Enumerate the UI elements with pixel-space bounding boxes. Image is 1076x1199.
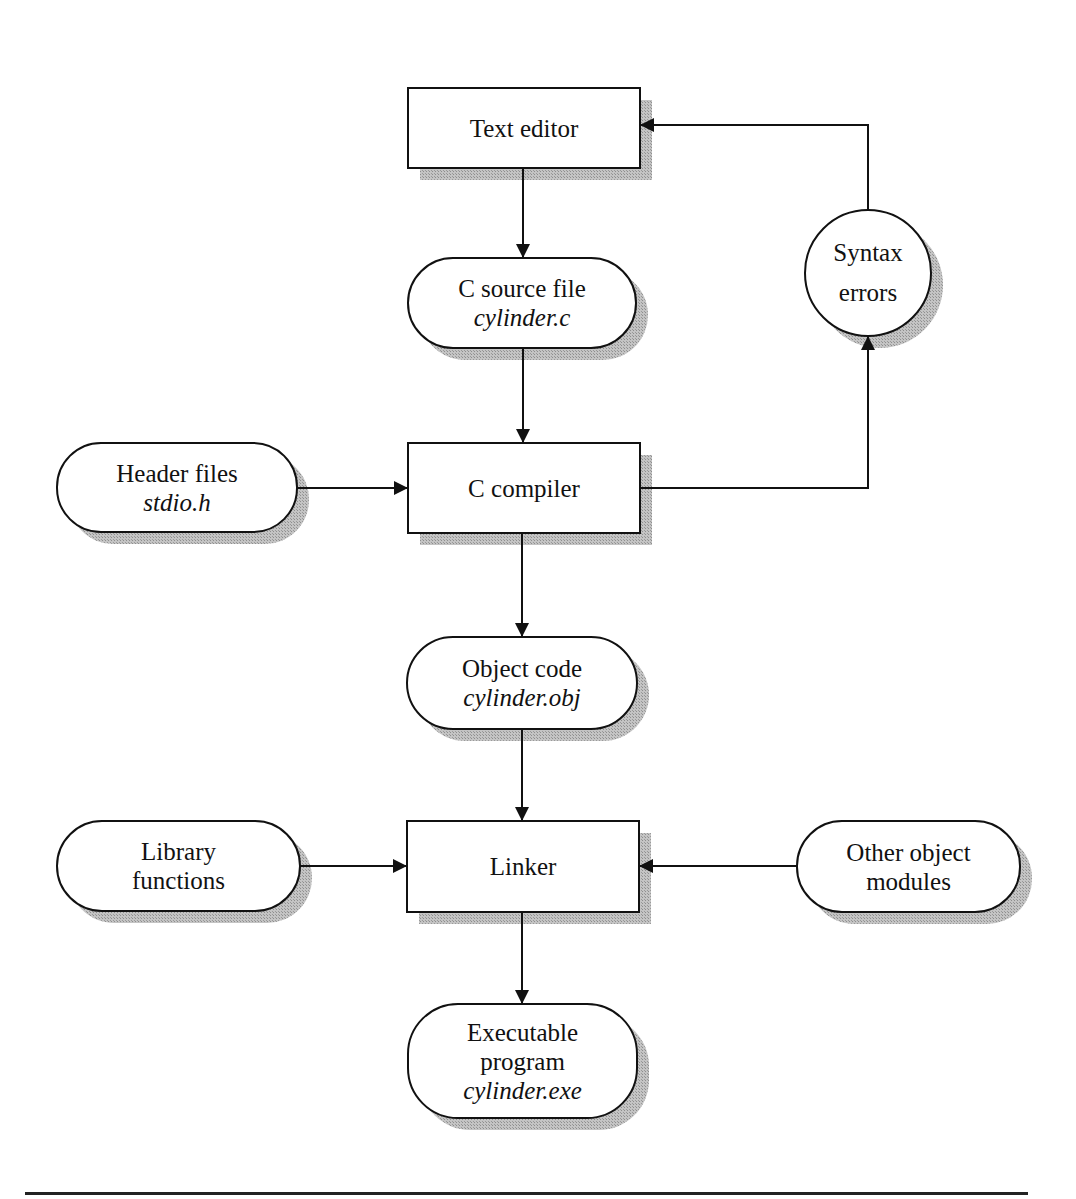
executable-program-filename: cylinder.exe	[463, 1076, 582, 1105]
text-editor-label: Text editor	[470, 114, 579, 143]
c-source-file-label: C source file	[458, 274, 586, 303]
node-other-object-modules: Other object modules	[797, 821, 1020, 912]
linker-label: Linker	[490, 852, 557, 881]
node-c-source-file: C source file cylinder.c	[408, 258, 636, 348]
object-code-label: Object code	[462, 654, 582, 683]
node-syntax-errors: Syntax errors	[805, 210, 931, 336]
node-object-code: Object code cylinder.obj	[407, 637, 637, 729]
library-functions-line1: Library	[141, 837, 216, 866]
node-linker: Linker	[407, 821, 639, 912]
c-compiler-label: C compiler	[468, 474, 580, 503]
node-text-editor: Text editor	[408, 88, 640, 168]
node-c-compiler: C compiler	[408, 443, 640, 533]
syntax-errors-line1: Syntax	[833, 233, 902, 273]
other-object-modules-line1: Other object	[846, 838, 970, 867]
node-executable-program: Executable program cylinder.exe	[408, 1004, 637, 1118]
node-header-files: Header files stdio.h	[57, 443, 297, 532]
library-functions-line2: functions	[132, 866, 225, 895]
edge-syntax-errors-to-editor	[640, 125, 868, 210]
other-object-modules-line2: modules	[866, 867, 951, 896]
object-code-filename: cylinder.obj	[463, 683, 580, 712]
header-files-label: Header files	[116, 459, 237, 488]
executable-program-line2: program	[480, 1047, 565, 1076]
header-files-filename: stdio.h	[143, 488, 210, 517]
executable-program-line1: Executable	[467, 1018, 578, 1047]
syntax-errors-line2: errors	[839, 273, 897, 313]
node-library-functions: Library functions	[57, 821, 300, 911]
bottom-divider-rule	[25, 1192, 1028, 1195]
c-source-file-filename: cylinder.c	[474, 303, 570, 332]
edge-compiler-to-syntax-errors	[640, 336, 868, 488]
